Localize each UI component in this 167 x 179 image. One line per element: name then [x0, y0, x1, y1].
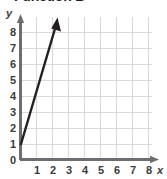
function-b-graph-figure: Function B [0, 0, 167, 179]
y-tick-6: 6 [2, 59, 16, 70]
y-tick-2: 2 [2, 123, 16, 134]
x-axis-label: x [157, 165, 163, 176]
function-line-segment [21, 27, 56, 144]
y-tick-8: 8 [2, 27, 16, 38]
x-tick-3: 3 [62, 165, 76, 176]
y-axis-arrowhead [17, 14, 24, 23]
y-tick-1: 1 [2, 139, 16, 150]
x-tick-1: 1 [30, 165, 44, 176]
y-axis-label: y [6, 8, 12, 19]
y-tick-5: 5 [2, 75, 16, 86]
x-tick-6: 6 [110, 165, 124, 176]
y-tick-0: 0 [2, 155, 16, 166]
x-tick-8: 8 [142, 165, 156, 176]
x-tick-4: 4 [78, 165, 92, 176]
grid-lines [20, 17, 152, 160]
x-tick-5: 5 [94, 165, 108, 176]
x-tick-2: 2 [46, 165, 60, 176]
x-tick-7: 7 [126, 165, 140, 176]
y-tick-4: 4 [2, 91, 16, 102]
coordinate-plane [0, 0, 167, 179]
x-axis-arrowhead [150, 156, 159, 163]
y-tick-7: 7 [2, 43, 16, 54]
y-tick-3: 3 [2, 107, 16, 118]
